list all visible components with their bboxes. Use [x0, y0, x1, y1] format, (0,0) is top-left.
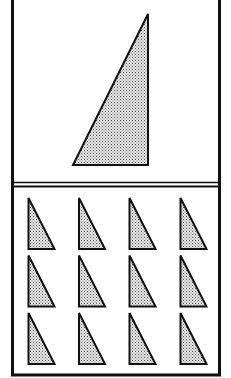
- small-triangle-r2-c2: [79, 256, 105, 307]
- small-triangle-r3-c2: [79, 313, 105, 364]
- small-triangle-r3-c1: [29, 313, 55, 364]
- panel-divider: [13, 183, 220, 187]
- small-triangle-r1-c4: [181, 198, 207, 249]
- small-triangle-r1-c1: [29, 198, 55, 249]
- small-triangle-r2-c1: [29, 256, 55, 307]
- small-triangle-r2-c3: [130, 256, 156, 307]
- small-triangle-r1-c3: [130, 198, 156, 249]
- top-panel-large-triangle: [73, 14, 148, 165]
- small-triangle-r1-c2: [79, 198, 105, 249]
- small-triangle-r3-c3: [130, 313, 156, 364]
- figure-canvas: [0, 0, 231, 378]
- bottom-panel-triangle-grid: [29, 198, 207, 364]
- small-triangle-r2-c4: [181, 256, 207, 307]
- large-triangle: [73, 14, 148, 165]
- small-triangle-r3-c4: [181, 313, 207, 364]
